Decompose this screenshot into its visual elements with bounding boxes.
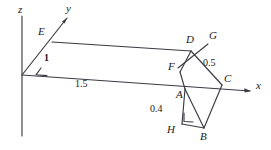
edge-C-B (204, 85, 222, 128)
measurement-label-y-edge: 1 (44, 53, 49, 63)
y-axis-label: y (66, 3, 71, 14)
point-label-H: H (167, 124, 175, 135)
x-axis-label: x (256, 80, 261, 91)
measurement-label-x-edge: 1.5 (75, 79, 88, 89)
point-label-D: D (186, 34, 194, 45)
point-label-B: B (200, 131, 207, 142)
point-label-G: G (209, 30, 217, 41)
point-label-F: F (168, 61, 175, 72)
point-label-E: E (38, 26, 45, 37)
origin-angle-marker (36, 68, 47, 76)
z-axis-label: z (18, 4, 22, 15)
measurement-label-ah-edge: 0.4 (150, 104, 163, 114)
edge-H-B (182, 124, 204, 128)
geometry-figure: z y x E D G F C A H B 1 1.5 0.5 0.4 (0, 0, 271, 150)
measurement-label-dc-edge: 0.5 (203, 58, 216, 68)
point-label-C: C (224, 73, 231, 84)
point-label-A: A (176, 89, 183, 100)
edge-E-D (52, 42, 191, 51)
right-angle-marker-h (184, 113, 193, 122)
